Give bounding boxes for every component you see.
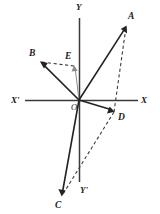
x-axis-label: X: [141, 96, 147, 105]
vector-diagram-figure: A B C D E O X X' Y Y': [0, 0, 160, 214]
origin-label: O: [71, 103, 77, 112]
vector-diagram-canvas: [0, 0, 160, 214]
y-axis-label: Y: [76, 3, 82, 12]
y-negative-axis-label: Y': [80, 186, 88, 195]
x-negative-axis-label: X': [11, 96, 20, 105]
point-label-c: C: [55, 201, 61, 211]
point-label-d: D: [118, 113, 125, 123]
point-label-e: E: [65, 52, 71, 62]
point-label-b: B: [29, 49, 35, 59]
dashed-segment-da: [114, 27, 126, 112]
vector-line-od: [79, 100, 111, 110]
vector-line-oc: [63, 100, 79, 192]
vector-line-oa: [79, 29, 124, 100]
vector-line-oe: [75, 69, 79, 100]
arrowhead-c: [58, 189, 65, 196]
dashed-segment-dc: [63, 112, 114, 194]
point-label-a: A: [128, 12, 134, 22]
